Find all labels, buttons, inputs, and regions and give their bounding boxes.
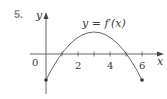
right-endpoint-dot: [140, 78, 144, 82]
origin-label: 0: [32, 58, 38, 68]
x-axis: [30, 52, 164, 57]
x-tick-label-2: 2: [75, 61, 81, 71]
x-axis-label: x: [157, 56, 163, 67]
left-endpoint-dot: [44, 78, 48, 82]
curve-label: y = f′(x): [82, 18, 126, 29]
x-tick-label-4: 4: [107, 61, 113, 71]
y-axis-arrow-icon: [44, 12, 49, 19]
x-tick-label-6: 6: [139, 61, 145, 71]
problem-number: 5.: [14, 9, 23, 20]
y-axis-label: y: [36, 10, 42, 21]
figure-f-prime-graph: 5. y y = f′(x) 0 2 4 6 x: [0, 0, 167, 99]
graph-svg: [0, 0, 167, 99]
